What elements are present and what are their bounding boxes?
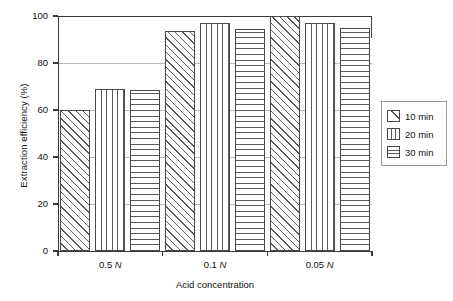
bar-01N-10min	[165, 31, 195, 251]
x-category-label-0: 0.5 N	[70, 259, 150, 270]
y-tick-label-80: 80	[8, 57, 48, 68]
y-tick-label-60: 60	[8, 104, 48, 115]
bar-005N-10min	[270, 16, 300, 251]
x-category-value: 0.5	[99, 259, 112, 270]
x-tick-mark-0	[57, 251, 58, 256]
legend-label-10min: 10 min	[405, 111, 434, 122]
y-tick-label-40: 40	[8, 151, 48, 162]
legend-item-30min: 30 min	[387, 143, 442, 161]
x-tick-mark-1	[162, 251, 163, 256]
x-category-label-2: 0.05 N	[280, 259, 360, 270]
diagonal-hatch-swatch-icon	[387, 110, 400, 122]
legend-label-30min: 30 min	[405, 147, 434, 158]
bar-chart-figure: Extraction efficiency (%) 020406080100 0…	[0, 0, 453, 301]
y-tick-label-100: 100	[8, 10, 48, 21]
y-tick-label-20: 20	[8, 198, 48, 209]
x-category-unit: N	[219, 259, 226, 270]
bar-05N-30min	[130, 90, 160, 251]
bar-005N-30min	[340, 28, 370, 251]
legend-item-10min: 10 min	[387, 107, 442, 125]
horizontal-lines-swatch-icon	[387, 146, 400, 158]
bar-01N-30min	[235, 29, 265, 251]
x-category-label-1: 0.1 N	[175, 259, 255, 270]
legend-item-20min: 20 min	[387, 125, 442, 143]
chart-legend: 10 min 20 min 30 min	[381, 101, 447, 166]
x-tick-mark-3	[371, 251, 372, 256]
bar-05N-10min	[60, 110, 90, 251]
x-category-unit: N	[115, 259, 122, 270]
x-category-value: 0.05	[306, 259, 325, 270]
bar-005N-20min	[305, 23, 335, 251]
x-category-unit: N	[327, 259, 334, 270]
x-axis-title: Acid concentration	[58, 279, 372, 290]
x-tick-mark-2	[267, 251, 268, 256]
legend-label-20min: 20 min	[405, 129, 434, 140]
bar-01N-20min	[200, 23, 230, 251]
x-category-value: 0.1	[204, 259, 217, 270]
vertical-lines-swatch-icon	[387, 128, 400, 140]
plot-right-edge	[371, 16, 372, 38]
bar-05N-20min	[95, 89, 125, 251]
y-tick-label-0: 0	[8, 245, 48, 256]
